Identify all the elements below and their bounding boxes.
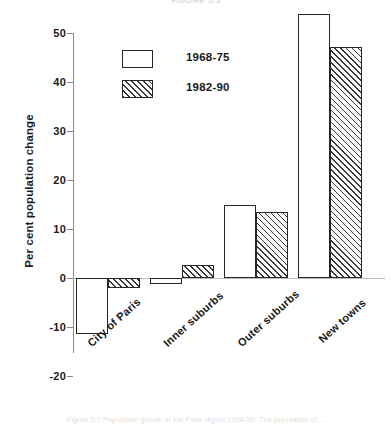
y-tick-label: 0 <box>60 272 66 284</box>
legend-label: 1968-75 <box>186 51 230 63</box>
legend: 1968-75 1982-90 <box>122 47 272 107</box>
y-tick-label: 20 <box>53 174 66 186</box>
y-axis-spine <box>73 33 74 353</box>
x-category-label-outer-suburbs: Outer suburbs <box>235 288 301 349</box>
bar-1968-75-outer-suburbs <box>224 205 256 278</box>
bar-1982-90-inner-suburbs <box>182 265 214 278</box>
bar-1982-90-new-towns <box>330 47 362 278</box>
y-tick-label: -10 <box>50 321 67 333</box>
y-tick-mark <box>67 131 73 132</box>
figure-top-title: FIGURE 5.3 <box>0 0 392 4</box>
y-tick-label: 40 <box>53 76 66 88</box>
y-axis-title: Per cent population change <box>23 114 35 267</box>
y-tick-label: -20 <box>50 370 67 382</box>
bar-1982-90-city-of-paris <box>108 278 140 288</box>
y-tick-mark <box>67 229 73 230</box>
bar-1968-75-new-towns <box>298 14 330 278</box>
bar-1982-90-outer-suburbs <box>256 212 288 278</box>
bar-1968-75-inner-suburbs <box>150 278 182 284</box>
x-category-label-inner-suburbs: Inner suburbs <box>161 289 225 349</box>
y-tick-label: 10 <box>53 223 66 235</box>
legend-item-1982-90: 1982-90 <box>122 77 272 107</box>
x-category-label-new-towns: New towns <box>316 296 368 345</box>
y-tick-mark <box>67 33 73 34</box>
y-tick-label: 30 <box>53 125 66 137</box>
y-tick-mark <box>67 82 73 83</box>
y-tick-label: 50 <box>53 27 66 39</box>
y-tick-mark <box>67 327 73 328</box>
legend-item-1968-75: 1968-75 <box>122 47 272 77</box>
y-tick-mark <box>67 376 73 377</box>
y-tick-mark <box>67 180 73 181</box>
legend-swatch-hatched-icon <box>122 80 153 98</box>
legend-label: 1982-90 <box>186 81 230 93</box>
figure-caption: Figure 5.3 Population growth in the Pari… <box>0 415 392 424</box>
legend-swatch-white-icon <box>122 50 153 68</box>
